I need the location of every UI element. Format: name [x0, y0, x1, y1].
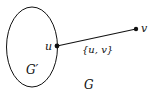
- subgraph-label: G′: [26, 63, 39, 77]
- node-u-label: u: [45, 40, 52, 53]
- node-v-label: v: [141, 22, 148, 35]
- node-u: [55, 44, 60, 49]
- graph-diagram: u v {u, v} G′ G: [0, 0, 148, 101]
- edge-label: {u, v}: [82, 44, 113, 55]
- node-v: [134, 27, 138, 31]
- graph-label: G: [84, 78, 94, 92]
